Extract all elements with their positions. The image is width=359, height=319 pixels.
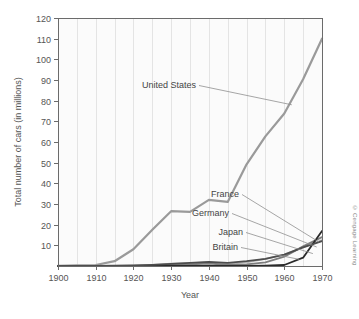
x-tick-label-1970: 1970 — [312, 273, 332, 283]
x-axis-tick-labels: 19001910192019301940195019601970 — [48, 273, 332, 283]
x-tick-label-1960: 1960 — [274, 273, 294, 283]
x-tick-label-1940: 1940 — [199, 273, 219, 283]
y-tick-label-30: 30 — [41, 200, 51, 210]
y-axis-ticks — [54, 19, 58, 246]
y-axis-title: Total number of cars (in millions) — [13, 77, 23, 207]
y-axis-tick-labels: 102030405060708090100110120 — [36, 14, 51, 251]
x-tick-label-1920: 1920 — [123, 273, 143, 283]
y-tick-label-40: 40 — [41, 179, 51, 189]
y-tick-label-10: 10 — [41, 241, 51, 251]
line-chart: 102030405060708090100110120 190019101920… — [0, 0, 359, 319]
y-tick-label-50: 50 — [41, 159, 51, 169]
y-tick-label-60: 60 — [41, 138, 51, 148]
x-tick-label-1950: 1950 — [237, 273, 257, 283]
y-tick-label-100: 100 — [36, 55, 51, 65]
series-label-united-states: United States — [142, 80, 197, 90]
y-tick-label-20: 20 — [41, 221, 51, 231]
y-tick-label-120: 120 — [36, 14, 51, 24]
copyright-credit: © Cengage Learning — [352, 205, 358, 266]
series-label-germany: Germany — [192, 208, 230, 218]
series-label-britain: Britain — [212, 242, 238, 252]
x-tick-label-1930: 1930 — [161, 273, 181, 283]
y-tick-label-80: 80 — [41, 97, 51, 107]
x-axis-title: Year — [181, 290, 199, 300]
series-label-france: France — [211, 189, 239, 199]
y-tick-label-70: 70 — [41, 117, 51, 127]
y-tick-label-110: 110 — [37, 35, 51, 45]
x-tick-label-1910: 1910 — [86, 273, 106, 283]
chart-container: 102030405060708090100110120 190019101920… — [0, 0, 359, 319]
y-tick-label-90: 90 — [41, 76, 51, 86]
series-label-japan: Japan — [218, 227, 243, 237]
x-tick-label-1900: 1900 — [48, 273, 68, 283]
